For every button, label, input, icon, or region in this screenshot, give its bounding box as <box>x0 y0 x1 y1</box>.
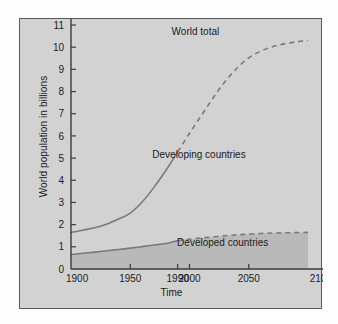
figure-root: 01234567891011190019501990200020502100Wo… <box>0 0 338 324</box>
y-tick-label: 8 <box>58 86 64 97</box>
x-tick-label: 2100 <box>310 273 323 284</box>
x-axis-label: Time <box>20 287 323 298</box>
y-tick-label: 1 <box>58 241 64 252</box>
population-line-chart: 01234567891011190019501990200020502100Wo… <box>20 19 323 310</box>
y-tick-label: 2 <box>58 219 64 230</box>
chart-annotation: Developing countries <box>152 149 245 160</box>
x-tick-label: 1900 <box>66 273 89 284</box>
y-tick-label: 11 <box>54 20 65 31</box>
world-total-line-projected <box>178 41 308 152</box>
y-tick-label: 0 <box>58 264 64 275</box>
world-total-line-historical <box>71 152 178 233</box>
y-tick-label: 3 <box>58 197 64 208</box>
y-tick-label: 6 <box>58 131 64 142</box>
y-tick-label: 9 <box>58 64 64 75</box>
y-tick-label: 4 <box>58 175 64 186</box>
x-tick-label: 2050 <box>238 273 261 284</box>
y-tick-label: 5 <box>58 153 64 164</box>
chart-panel: 01234567891011190019501990200020502100Wo… <box>19 18 322 309</box>
y-tick-label: 10 <box>53 42 65 53</box>
chart-annotation: Developed countries <box>177 237 268 248</box>
x-tick-label: 1950 <box>119 273 142 284</box>
chart-annotation: World total <box>172 26 220 37</box>
y-tick-label: 7 <box>58 108 64 119</box>
x-tick-label: 2000 <box>178 273 201 284</box>
y-axis-label: World population in billions <box>38 52 49 222</box>
